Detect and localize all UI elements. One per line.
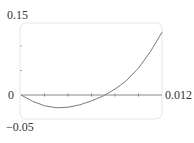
axes (20, 46, 162, 97)
y-label-top: 0.15 (7, 9, 28, 21)
x-label-right: 0.012 (165, 89, 192, 101)
y-label-bottom: −0.05 (6, 121, 34, 133)
y-label-zero: 0 (8, 89, 14, 101)
